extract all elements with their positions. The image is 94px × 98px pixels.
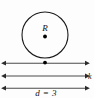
tangent-point-dot xyxy=(43,61,47,65)
line-k-label: k xyxy=(88,72,92,81)
diagram-canvas: R k d = 3 xyxy=(0,0,94,98)
radius-label: R xyxy=(41,23,48,33)
center-point-dot xyxy=(43,35,47,39)
distance-label: d = 3 xyxy=(35,88,57,98)
geometry-diagram: R k d = 3 xyxy=(0,0,94,98)
